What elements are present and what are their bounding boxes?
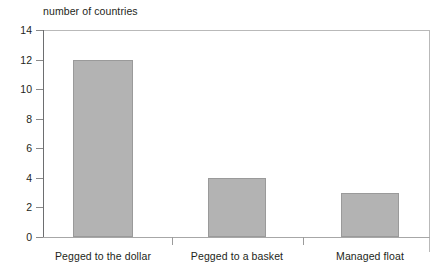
x-axis-line [43, 237, 430, 238]
category-separator-tick [303, 237, 304, 245]
bar [73, 60, 133, 237]
y-axis-tick-mark [36, 119, 43, 120]
y-axis-tick-label: 6 [26, 143, 32, 154]
x-axis-category-label: Pegged to the dollar [55, 250, 151, 262]
y-axis-tick-mark [36, 148, 43, 149]
x-axis-category-label: Pegged to a basket [191, 250, 283, 262]
frame-right-border [429, 30, 430, 252]
bar-chart-figure: number of countries 02468101214 Pegged t… [0, 0, 443, 276]
y-axis-tick-label: 8 [26, 113, 32, 124]
y-axis-tick-mark [36, 178, 43, 179]
y-axis-title: number of countries [43, 5, 138, 17]
y-axis-tick-mark [36, 207, 43, 208]
y-axis-tick-label: 2 [26, 202, 32, 213]
bar [208, 178, 266, 237]
y-axis-line [43, 30, 44, 238]
frame-top-border [43, 30, 430, 31]
category-separator-tick [172, 237, 173, 245]
plot-area: 02468101214 [43, 30, 430, 237]
y-axis-tick-label: 0 [26, 232, 32, 243]
y-axis-tick-mark [36, 89, 43, 90]
y-axis-tick-label: 12 [20, 54, 32, 65]
x-axis-category-label: Managed float [336, 250, 404, 262]
y-axis-tick-label: 4 [26, 173, 32, 184]
y-axis-tick-label: 14 [20, 25, 32, 36]
y-axis-tick-mark [36, 30, 43, 31]
y-axis-tick-label: 10 [20, 84, 32, 95]
bar [341, 193, 399, 237]
y-axis-tick-mark [36, 60, 43, 61]
y-axis-tick-mark [36, 237, 43, 238]
